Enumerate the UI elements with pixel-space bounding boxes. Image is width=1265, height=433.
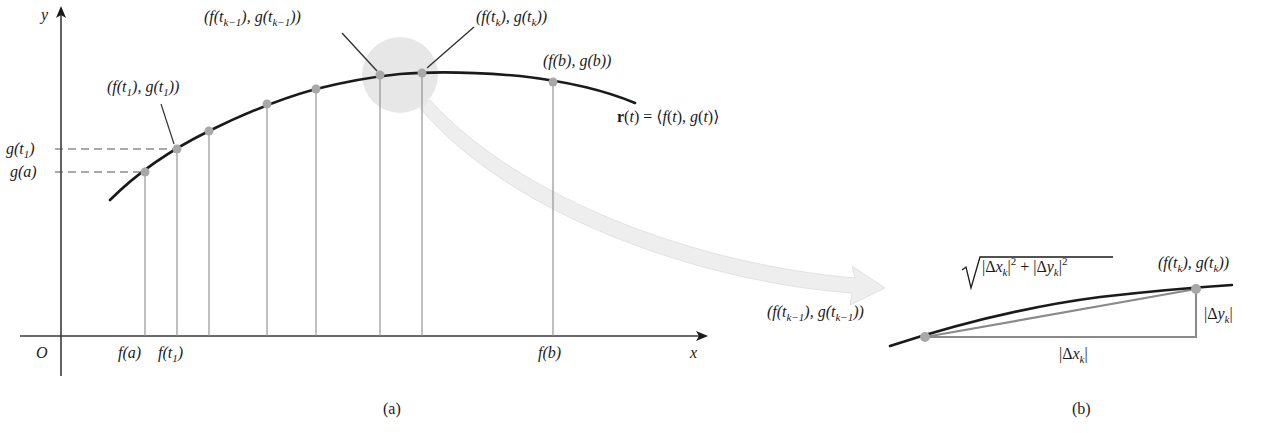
figure-canvas — [0, 0, 1265, 433]
zoom-arrow-icon — [420, 100, 885, 305]
x-axis-label: x — [690, 344, 697, 362]
y-tick-g-t1: g(t1) — [6, 140, 35, 158]
label-point-tk-minus-1: (f(tk−1), g(tk−1)) — [204, 8, 301, 26]
vertical-drop-lines — [145, 73, 553, 336]
point-tk-minus-1 — [920, 332, 930, 342]
leader-tk — [427, 27, 474, 68]
y-tick-g-a: g(a) — [10, 163, 37, 181]
x-tick-f-b: f(b) — [538, 344, 561, 362]
label-b-point-tk: (f(tk), g(tk)) — [1158, 254, 1229, 272]
origin-label: O — [36, 344, 48, 362]
x-tick-f-t1: f(t1) — [158, 344, 183, 362]
curve-equation-label: r(t) = ⟨f(t), g(t)⟩ — [617, 108, 719, 126]
label-point-t1: (f(t1), g(t1)) — [107, 78, 179, 96]
dy-label: |Δyk| — [1204, 305, 1233, 323]
point-tk — [1191, 284, 1201, 294]
leader-t1 — [161, 104, 174, 144]
x-tick-f-a: f(a) — [118, 344, 141, 362]
chord-hypotenuse — [925, 289, 1196, 337]
label-point-b: (f(b), g(b)) — [543, 52, 611, 70]
label-point-tk: (f(tk), g(tk)) — [476, 8, 547, 26]
hypotenuse-label: |Δxk|2 + |Δyk|2 — [982, 258, 1067, 276]
label-b-point-tk-minus-1: (f(tk−1), g(tk−1)) — [767, 303, 864, 321]
dx-label: |Δxk| — [1059, 345, 1088, 363]
panel-b-caption: (b) — [1072, 400, 1091, 418]
y-axis-label: y — [41, 6, 48, 24]
panel-a-caption: (a) — [383, 400, 401, 418]
